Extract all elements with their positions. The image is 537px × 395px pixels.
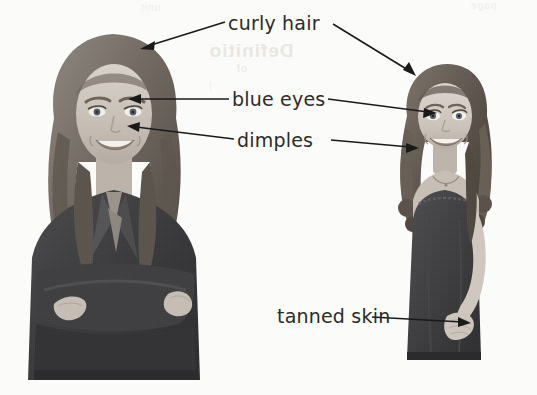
bleed-through-subtitle: of: [236, 62, 247, 74]
label-tanned-skin: tanned skin: [277, 305, 390, 327]
label-dimples: dimples: [237, 129, 313, 151]
label-curly-hair: curly hair: [228, 12, 320, 34]
bleed-through-top-right: page: [470, 0, 496, 11]
label-blue-eyes: blue eyes: [232, 88, 325, 110]
photo-woman: [18, 22, 210, 380]
bleed-through-title: Definition: [196, 40, 294, 62]
photo-girl: [385, 58, 505, 378]
bleed-through-top-left: unit: [140, 2, 160, 13]
annotated-figure: unit page Definition of the word: [0, 0, 537, 395]
